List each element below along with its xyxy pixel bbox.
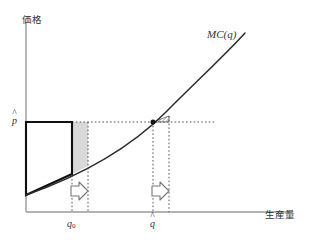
qhat-mark: ^	[150, 212, 154, 222]
figure-canvas: 価格 生産量 MC(q) p ^ q0 q ^	[0, 0, 316, 243]
marginal-cost-curve	[26, 33, 245, 195]
arrow-right	[152, 182, 169, 200]
price-hat-mark: ^	[12, 109, 16, 119]
y-axis-label: 価格	[22, 12, 42, 26]
arrow-left	[71, 182, 88, 200]
equilibrium-dot	[151, 120, 156, 125]
x-axis-label: 生産量	[265, 207, 295, 221]
q0-tick-label: q0	[67, 218, 76, 230]
q0-subscript: 0	[72, 222, 76, 230]
curve-label: MC(q)	[207, 28, 236, 40]
producer-surplus-outline	[26, 122, 72, 195]
price-tick-label: p ^	[12, 115, 17, 126]
qhat-tick-label: q ^	[150, 218, 155, 229]
incremental-surplus-shaded	[72, 122, 88, 174]
